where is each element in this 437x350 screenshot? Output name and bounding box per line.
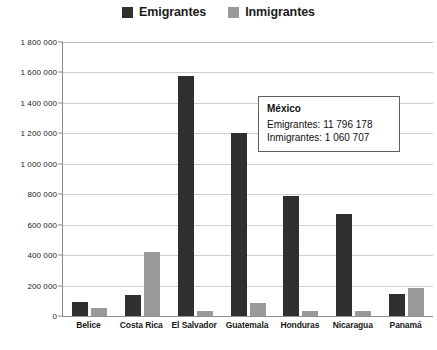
- y-axis-tick-label: 400 000: [27, 251, 57, 260]
- bar-emigrantes: [231, 133, 247, 316]
- x-axis-label: Costa Rica: [115, 320, 168, 330]
- bar-chart: Emigrantes Inmigrantes 1 800 0001 600 00…: [0, 0, 437, 350]
- annotation-emigrantes: Emigrantes: 11 796 178: [267, 118, 391, 131]
- x-axis-label: Belice: [62, 320, 115, 330]
- bar-group: [380, 42, 433, 316]
- legend-label-emigrantes: Emigrantes: [139, 6, 206, 19]
- bar-inmigrantes: [91, 308, 107, 316]
- bar-inmigrantes: [408, 288, 424, 316]
- bar-emigrantes: [178, 76, 194, 317]
- bar-emigrantes: [336, 214, 352, 316]
- legend-label-inmigrantes: Inmigrantes: [245, 6, 315, 19]
- bar-group: [274, 42, 327, 316]
- x-axis-label: Panamá: [379, 320, 432, 330]
- mexico-annotation-box: México Emigrantes: 11 796 178 Inmigrante…: [258, 96, 400, 152]
- bar-inmigrantes: [355, 311, 371, 316]
- bar-groups: [63, 42, 433, 316]
- legend-item-emigrantes: Emigrantes: [122, 6, 206, 19]
- bar-inmigrantes: [302, 311, 318, 316]
- y-axis-tick-label: 0: [52, 312, 57, 321]
- bar-emigrantes: [283, 196, 299, 316]
- plot-area: 1 800 0001 600 0001 400 0001 200 0001 00…: [62, 42, 433, 317]
- y-axis-tick-label: 200 000: [27, 281, 57, 290]
- x-axis-label: Nicaragua: [326, 320, 379, 330]
- x-axis-label: Guatemala: [221, 320, 274, 330]
- bar-inmigrantes: [250, 303, 266, 316]
- annotation-inmigrantes: Inmigrantes: 1 060 707: [267, 131, 391, 144]
- bar-group: [222, 42, 275, 316]
- y-axis-tick-label: 600 000: [27, 220, 57, 229]
- x-axis-label: El Salvador: [168, 320, 221, 330]
- bar-emigrantes: [72, 302, 88, 316]
- bar-group: [169, 42, 222, 316]
- y-axis-tick-label: 1 600 000: [21, 68, 58, 77]
- chart-legend: Emigrantes Inmigrantes: [0, 6, 437, 19]
- annotation-title: México: [267, 103, 391, 116]
- bar-group: [63, 42, 116, 316]
- legend-swatch-inmigrantes: [228, 7, 239, 18]
- y-axis-tick-label: 1 200 000: [21, 129, 58, 138]
- bar-emigrantes: [389, 294, 405, 316]
- x-axis-label: Honduras: [273, 320, 326, 330]
- y-axis-tick-label: 1 000 000: [21, 159, 58, 168]
- bar-group: [327, 42, 380, 316]
- y-axis-tick-label: 800 000: [27, 190, 57, 199]
- legend-item-inmigrantes: Inmigrantes: [228, 6, 315, 19]
- bar-group: [116, 42, 169, 316]
- bar-inmigrantes: [197, 311, 213, 316]
- legend-swatch-emigrantes: [122, 7, 133, 18]
- y-axis-tick-label: 1 800 000: [21, 38, 58, 47]
- bar-inmigrantes: [144, 252, 160, 316]
- x-axis-labels: BeliceCosta RicaEl SalvadorGuatemalaHond…: [62, 320, 432, 330]
- bar-emigrantes: [125, 295, 141, 316]
- y-axis-tick-label: 1 400 000: [21, 98, 58, 107]
